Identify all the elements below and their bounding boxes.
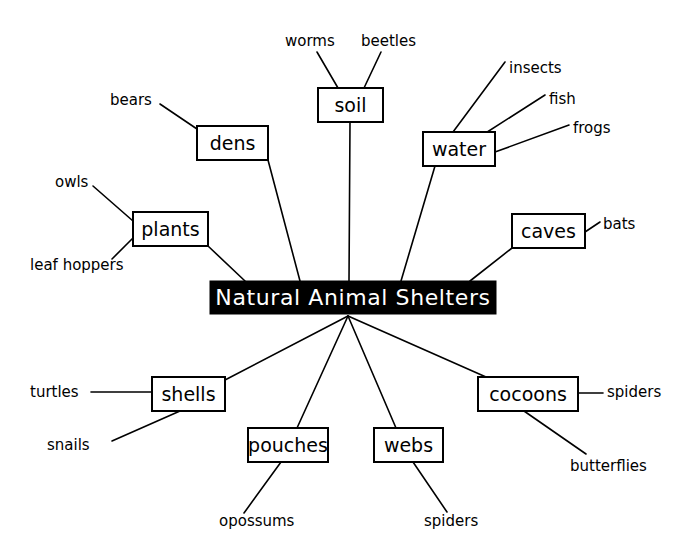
node-caves[interactable]: caves xyxy=(512,214,585,248)
leaf-label-dens-0: bears xyxy=(110,91,152,109)
node-cocoons-label: cocoons xyxy=(489,383,567,405)
leaf-label-soil-0: worms xyxy=(285,32,335,50)
connector-hub-plants xyxy=(208,246,245,281)
hub-connector-group xyxy=(208,122,512,428)
node-soil-label: soil xyxy=(334,94,366,116)
leaf-label-pouches-0: opossums xyxy=(219,512,295,530)
node-soil[interactable]: soil xyxy=(318,88,383,122)
node-cocoons[interactable]: cocoons xyxy=(478,377,578,411)
leaf-label-cocoons-0: spiders xyxy=(607,383,661,401)
leaf-label-water-1: fish xyxy=(549,90,576,108)
node-water[interactable]: water xyxy=(423,132,495,166)
connector-plants-leaf-0 xyxy=(93,186,133,221)
connector-water-leaf-2 xyxy=(495,125,569,152)
connector-water-leaf-0 xyxy=(453,62,505,132)
node-plants[interactable]: plants xyxy=(133,212,208,246)
hub-banner-title: Natural Animal Shelters xyxy=(215,285,490,310)
connector-pouches-leaf-0 xyxy=(244,462,281,513)
connector-hub-pouches xyxy=(297,316,348,428)
node-water-label: water xyxy=(432,138,486,160)
node-pouches-label: pouches xyxy=(248,434,328,456)
node-pouches[interactable]: pouches xyxy=(248,428,328,462)
leaf-label-caves-0: bats xyxy=(603,215,636,233)
node-webs[interactable]: webs xyxy=(374,428,443,462)
diagram-canvas: denssoilwaterplantscavesshellspouchesweb… xyxy=(0,0,690,555)
node-shells-label: shells xyxy=(161,383,215,405)
node-webs-label: webs xyxy=(384,434,433,456)
node-dens-label: dens xyxy=(210,132,256,154)
connector-shells-leaf-1 xyxy=(112,411,180,441)
connector-water-leaf-1 xyxy=(481,95,545,136)
leaf-label-shells-1: snails xyxy=(47,436,90,454)
connector-hub-water xyxy=(401,166,435,281)
connector-hub-webs xyxy=(348,316,396,428)
connector-soil-leaf-0 xyxy=(317,52,338,88)
connector-hub-dens xyxy=(268,160,300,281)
leaf-label-water-2: frogs xyxy=(573,119,611,137)
leaf-label-plants-1: leaf hoppers xyxy=(30,256,124,274)
node-dens[interactable]: dens xyxy=(197,126,268,160)
connector-hub-caves xyxy=(470,248,512,281)
hub-node[interactable]: Natural Animal Shelters xyxy=(210,281,496,314)
node-shells[interactable]: shells xyxy=(152,377,225,411)
node-plants-label: plants xyxy=(141,218,199,240)
connector-soil-leaf-1 xyxy=(364,52,381,88)
connector-hub-soil xyxy=(349,122,350,281)
hub-banner[interactable]: Natural Animal Shelters xyxy=(210,281,496,314)
mind-map-diagram: denssoilwaterplantscavesshellspouchesweb… xyxy=(0,0,690,555)
leaf-label-plants-0: owls xyxy=(55,173,89,191)
connector-hub-cocoons xyxy=(348,316,486,377)
leaf-label-webs-0: spiders xyxy=(424,512,478,530)
connector-webs-leaf-0 xyxy=(413,462,447,512)
connector-hub-shells xyxy=(225,316,348,380)
leaf-label-soil-1: beetles xyxy=(361,32,416,50)
connector-caves-leaf-0 xyxy=(585,222,600,232)
leaf-label-water-0: insects xyxy=(509,59,562,77)
node-caves-label: caves xyxy=(521,220,576,242)
connector-cocoons-leaf-1 xyxy=(524,411,586,454)
connector-dens-leaf-0 xyxy=(160,104,197,129)
leaf-label-shells-0: turtles xyxy=(30,383,79,401)
leaf-label-cocoons-1: butterflies xyxy=(570,457,647,475)
